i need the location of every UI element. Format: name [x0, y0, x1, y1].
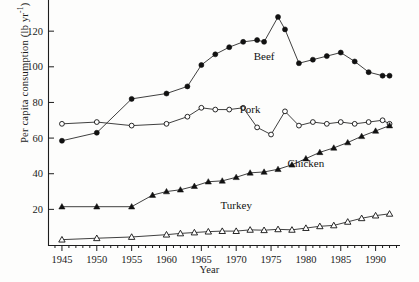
data-point [164, 91, 169, 96]
x-tick-label: 1985 [330, 254, 351, 265]
y-tick-label: 80 [33, 97, 44, 108]
data-point [366, 120, 371, 125]
series-turkey: Turkey [59, 199, 393, 242]
plot-svg: 2040608010012019451950195519601965197019… [48, 8, 400, 245]
y-axis-title-exponent: -1 [16, 6, 25, 13]
data-point [310, 120, 315, 125]
x-tick-label: 1965 [191, 254, 212, 265]
data-point [387, 73, 392, 78]
y-axis-title-paren: ) [19, 3, 30, 7]
data-point [310, 57, 315, 62]
x-tick-label: 1980 [295, 254, 316, 265]
data-point [199, 63, 204, 68]
series-line [62, 126, 390, 207]
series-label-pork: Pork [240, 103, 261, 115]
data-point [59, 138, 64, 143]
data-point [297, 123, 302, 128]
data-point [255, 38, 260, 43]
data-point [185, 84, 190, 89]
y-axis-title: Per capita consumption (lb yr-1) [16, 0, 30, 158]
y-tick-label: 40 [33, 168, 44, 179]
x-axis-title: Year [0, 264, 419, 275]
series-label-chicken: Chicken [288, 157, 325, 169]
x-tick-label: 1975 [261, 254, 282, 265]
series-label-turkey: Turkey [221, 199, 253, 211]
data-point [380, 118, 385, 123]
x-tick-label: 1945 [51, 254, 72, 265]
data-point [129, 123, 134, 128]
data-point [255, 125, 260, 130]
data-point [338, 50, 343, 55]
data-point [366, 70, 371, 75]
data-point [247, 227, 253, 233]
data-point [386, 211, 392, 217]
x-tick-label: 1990 [365, 254, 386, 265]
data-point [185, 114, 190, 119]
data-point [275, 226, 281, 232]
data-point [227, 107, 232, 112]
x-tick-label: 1970 [226, 254, 247, 265]
data-point [352, 121, 357, 126]
x-tick-label: 1960 [156, 254, 177, 265]
data-point [199, 105, 204, 110]
data-point [296, 61, 301, 66]
data-point [324, 121, 329, 126]
y-tick-label: 120 [27, 26, 43, 37]
series-line [62, 214, 390, 240]
data-point [345, 139, 351, 144]
data-point [352, 59, 357, 64]
data-point [227, 45, 232, 50]
data-point [213, 107, 218, 112]
data-point [262, 39, 267, 44]
y-tick-label: 20 [33, 204, 44, 215]
data-point [213, 52, 218, 57]
data-point [60, 121, 65, 126]
data-point [164, 121, 169, 126]
series-label-beef: Beef [254, 50, 275, 62]
data-point [269, 132, 274, 137]
x-tick-label: 1950 [86, 254, 107, 265]
data-point [94, 130, 99, 135]
data-point [129, 96, 134, 101]
data-point [282, 27, 287, 32]
x-tick-label: 1955 [121, 254, 142, 265]
series-chicken: Chicken [59, 123, 393, 209]
y-tick-label: 100 [27, 61, 43, 72]
data-point [338, 120, 343, 125]
data-point [276, 14, 281, 19]
data-point [324, 54, 329, 59]
data-point [380, 73, 385, 78]
y-tick-label: 60 [33, 133, 44, 144]
data-point [241, 39, 246, 44]
plot-area: 2040608010012019451950195519601965197019… [48, 8, 400, 245]
meat-consumption-chart: Per capita consumption (lb yr-1) 2040608… [0, 0, 419, 282]
data-point [94, 120, 99, 125]
data-point [283, 109, 288, 114]
